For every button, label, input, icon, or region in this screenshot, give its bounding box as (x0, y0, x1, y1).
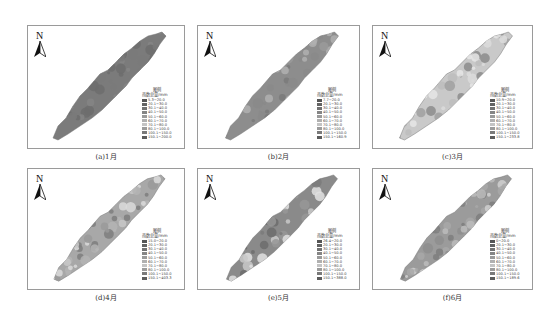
legend-swatch (142, 268, 147, 271)
legend-swatch (317, 268, 322, 271)
legend-swatch (317, 264, 322, 267)
legend-swatch (142, 103, 147, 106)
legend-header: 雨数总量/mm (317, 234, 347, 238)
legend-header: 雨数总量/mm (142, 93, 172, 97)
map-legend: 图例 雨数总量/mm 0~20.020.1~30.030.1~40.040.1~… (490, 229, 520, 280)
legend-swatch (490, 115, 495, 118)
panel-caption: (e)5月 (197, 292, 360, 302)
legend-swatch (317, 252, 322, 255)
legend-swatch (490, 256, 495, 259)
legend-swatch (142, 131, 147, 134)
legend-swatch (317, 115, 322, 118)
panel-caption: (d)4月 (27, 292, 185, 302)
legend-swatch (490, 277, 495, 280)
legend-swatch (317, 244, 322, 247)
map-panel-6: N 图例 雨数总量/mm 0~20.020.1~30.030.1~40.040.… (372, 168, 533, 304)
legend-swatch (490, 127, 495, 130)
legend-swatch (142, 264, 147, 267)
legend-label: 150.1~200.0 (148, 135, 172, 139)
legend-swatch (317, 131, 322, 134)
legend-swatch (142, 244, 147, 247)
legend-swatch (490, 260, 495, 263)
legend-swatch (317, 272, 322, 275)
legend-swatch (142, 111, 147, 114)
legend-swatch (317, 123, 322, 126)
map-frame: N 图例 雨数总量/mm 10.9~20.020.1~30.030.1~40.0… (372, 25, 533, 149)
map-frame: N 图例 雨数总量/mm 7.7~20.020.1~30.030.1~40.04… (197, 25, 360, 149)
legend-swatch (142, 99, 147, 102)
legend-swatch (317, 256, 322, 259)
legend-swatch (317, 103, 322, 106)
legend-swatch (142, 256, 147, 259)
legend-swatch (317, 136, 322, 139)
map-legend: 图例 雨数总量/mm 26.4~20.020.1~30.030.1~40.040… (317, 229, 347, 280)
panel-caption: (f)6月 (372, 292, 533, 302)
legend-swatch (142, 123, 147, 126)
legend-swatch (142, 107, 147, 110)
legend-swatch (142, 272, 147, 275)
legend-label: 150.1~403.3 (148, 276, 172, 280)
map-panel-2: N 图例 雨数总量/mm 7.7~20.020.1~30.030.1~40.04… (197, 25, 360, 163)
legend-swatch (490, 119, 495, 122)
legend-swatch (142, 260, 147, 263)
legend-entry: 150.1~189.6 (490, 276, 520, 280)
legend-label: 150.1~160.9 (323, 135, 347, 139)
legend-swatch (317, 277, 322, 280)
legend-swatch (490, 99, 495, 102)
map-legend: 图例 雨数总量/mm 10.9~20.020.1~30.030.1~40.040… (490, 88, 520, 139)
legend-swatch (490, 107, 495, 110)
panel-caption: (c)3月 (372, 151, 533, 161)
legend-entry: 150.1~200.0 (142, 135, 172, 139)
map-panel-1: N 图例 雨数总量/mm 5.3~20.020.1~30.030.1~40.04… (27, 25, 185, 163)
legend-swatch (490, 272, 495, 275)
map-legend: 图例 雨数总量/mm 15.0~20.020.1~30.030.1~40.040… (142, 229, 172, 280)
map-frame: N 图例 雨数总量/mm 5.3~20.020.1~30.030.1~40.04… (27, 25, 185, 149)
legend-swatch (142, 115, 147, 118)
map-panel-5: N 图例 雨数总量/mm 26.4~20.020.1~30.030.1~40.0… (197, 168, 360, 304)
legend-swatch (490, 268, 495, 271)
legend-swatch (142, 119, 147, 122)
panel-caption: (b)2月 (197, 151, 360, 161)
map-frame: N 图例 雨数总量/mm 0~20.020.1~30.030.1~40.040.… (372, 168, 533, 290)
legend-swatch (490, 264, 495, 267)
map-legend: 图例 雨数总量/mm 7.7~20.020.1~30.030.1~40.040.… (317, 88, 347, 139)
legend-label: 150.1~388.0 (323, 276, 347, 280)
legend-header: 雨数总量/mm (142, 234, 172, 238)
legend-entry: 150.1~388.0 (317, 276, 347, 280)
legend-swatch (490, 244, 495, 247)
legend-swatch (317, 119, 322, 122)
legend-entry: 150.1~160.9 (317, 135, 347, 139)
map-frame: N 图例 雨数总量/mm 26.4~20.020.1~30.030.1~40.0… (197, 168, 360, 290)
legend-label: 150.1~233.8 (496, 135, 520, 139)
legend-swatch (142, 136, 147, 139)
legend-swatch (317, 240, 322, 243)
legend-swatch (317, 107, 322, 110)
legend-header: 雨数总量/mm (490, 234, 520, 238)
legend-swatch (142, 277, 147, 280)
legend-swatch (317, 99, 322, 102)
legend-swatch (317, 260, 322, 263)
legend-header: 雨数总量/mm (490, 93, 520, 97)
legend-swatch (142, 240, 147, 243)
legend-swatch (317, 127, 322, 130)
legend-swatch (317, 248, 322, 251)
panel-caption: (a)1月 (27, 151, 185, 161)
legend-swatch (317, 111, 322, 114)
legend-swatch (490, 103, 495, 106)
legend-swatch (490, 131, 495, 134)
map-panel-4: N 图例 雨数总量/mm 15.0~20.020.1~30.030.1~40.0… (27, 168, 185, 304)
legend-swatch (490, 136, 495, 139)
legend-swatch (490, 111, 495, 114)
map-legend: 图例 雨数总量/mm 5.3~20.020.1~30.030.1~40.040.… (142, 88, 172, 139)
legend-label: 150.1~189.6 (496, 276, 520, 280)
map-panel-3: N 图例 雨数总量/mm 10.9~20.020.1~30.030.1~40.0… (372, 25, 533, 163)
legend-header: 雨数总量/mm (317, 93, 347, 97)
legend-entry: 150.1~403.3 (142, 276, 172, 280)
legend-swatch (142, 248, 147, 251)
legend-swatch (490, 123, 495, 126)
legend-swatch (490, 252, 495, 255)
map-frame: N 图例 雨数总量/mm 15.0~20.020.1~30.030.1~40.0… (27, 168, 185, 290)
legend-swatch (490, 248, 495, 251)
legend-entry: 150.1~233.8 (490, 135, 520, 139)
legend-swatch (490, 240, 495, 243)
